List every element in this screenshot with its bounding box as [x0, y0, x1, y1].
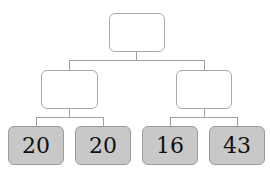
connector [103, 117, 104, 126]
connector [170, 117, 171, 126]
connector [237, 117, 238, 126]
leaf-node: 20 [8, 126, 64, 165]
leaf-value: 20 [89, 133, 117, 158]
middle-node-left [41, 70, 98, 109]
connector [36, 117, 37, 126]
middle-node-right [176, 70, 232, 109]
connector [170, 117, 238, 118]
connector [69, 60, 204, 61]
leaf-node: 43 [209, 126, 265, 165]
leaf-value: 16 [156, 133, 184, 158]
leaf-value: 20 [22, 133, 50, 158]
connector [204, 60, 205, 70]
leaf-value: 43 [223, 133, 251, 158]
connector [69, 60, 70, 70]
leaf-node: 20 [75, 126, 131, 165]
root-node [109, 13, 165, 52]
leaf-node: 16 [142, 126, 198, 165]
connector [36, 117, 103, 118]
